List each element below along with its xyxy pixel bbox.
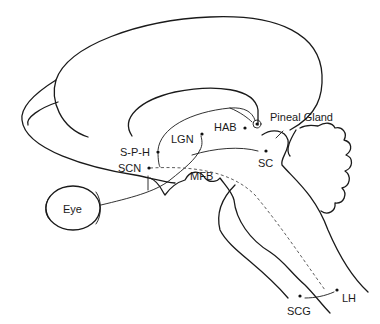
label-sph: S-P-H xyxy=(120,146,150,158)
midbrain-outline xyxy=(262,131,368,292)
sph-fiber xyxy=(158,152,160,167)
lh-scg-fiber xyxy=(305,292,334,298)
scn-dot xyxy=(147,166,150,169)
frontal-inner-curve xyxy=(28,102,58,125)
hab-fiber xyxy=(230,108,252,122)
scg-dot xyxy=(298,294,301,297)
scn-lh-dashed-tract xyxy=(150,168,325,290)
pineal-gland-center xyxy=(256,123,259,126)
label-eye: Eye xyxy=(63,203,82,215)
sc-dot xyxy=(264,149,267,152)
label-lh: LH xyxy=(342,292,356,304)
label-mfb: MFB xyxy=(190,170,213,182)
label-lgn: LGN xyxy=(171,133,194,145)
lgn-dot xyxy=(200,132,203,135)
lgn-fiber xyxy=(200,136,202,150)
sc-fiber xyxy=(192,148,258,155)
label-scn: SCN xyxy=(118,162,141,174)
brainstem-anterior xyxy=(219,185,288,298)
hab-dot xyxy=(243,126,246,129)
sph-dot xyxy=(156,150,159,153)
label-hab: HAB xyxy=(214,121,237,133)
label-scg: SCG xyxy=(287,305,311,317)
cerebellum xyxy=(288,123,352,213)
optic-tract xyxy=(101,150,200,205)
label-pineal-gland: Pineal Gland xyxy=(270,111,333,123)
hypothalamus-contour xyxy=(150,172,330,313)
label-sc: SC xyxy=(258,157,273,169)
lh-dot xyxy=(335,288,338,291)
brain-pathway-diagram: Pineal Gland HAB LGN S-P-H SCN SC MFB Ey… xyxy=(0,0,380,324)
